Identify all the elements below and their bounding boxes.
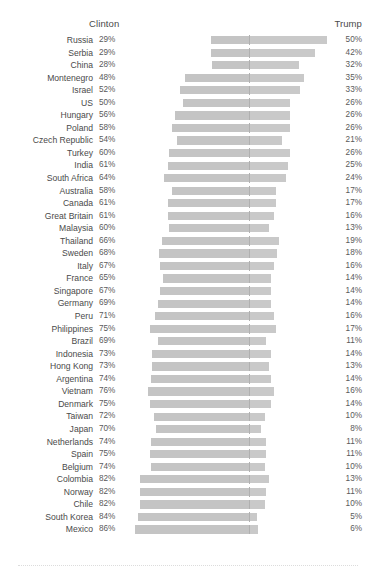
clinton-bar — [177, 136, 249, 144]
trump-bar — [249, 413, 265, 421]
clinton-value: 84% — [99, 511, 125, 524]
trump-value: 17% — [336, 197, 362, 210]
clinton-bar — [152, 350, 249, 358]
chart-row: Brazil69%11% — [0, 335, 370, 348]
clinton-bar — [151, 463, 249, 471]
bar-band — [132, 47, 330, 60]
trump-value: 17% — [336, 185, 362, 198]
bar-band — [132, 398, 330, 411]
country-label: Mexico — [0, 523, 93, 536]
country-label: Poland — [0, 122, 93, 135]
clinton-value: 72% — [99, 410, 125, 423]
trump-value: 16% — [336, 310, 362, 323]
trump-bar — [249, 249, 277, 257]
trump-bar — [249, 124, 290, 132]
trump-value: 14% — [336, 348, 362, 361]
center-divider — [249, 286, 250, 296]
bar-band — [132, 172, 330, 185]
chart-row: Taiwan72%10% — [0, 410, 370, 423]
trump-value: 11% — [336, 436, 362, 449]
bar-band — [132, 498, 330, 511]
bar-band — [132, 473, 330, 486]
clinton-value: 86% — [99, 523, 125, 536]
trump-value: 25% — [336, 159, 362, 172]
clinton-value: 61% — [99, 210, 125, 223]
center-divider — [249, 148, 250, 158]
clinton-bar — [156, 425, 249, 433]
bar-band — [132, 34, 330, 47]
diverging-bar-chart: Clinton Trump Russia29%50%Serbia29%42%Ch… — [0, 0, 370, 584]
country-label: Indonesia — [0, 348, 93, 361]
bar-band — [132, 122, 330, 135]
bar-band — [132, 373, 330, 386]
legend-label-trump: Trump — [334, 18, 362, 29]
trump-value: 35% — [336, 72, 362, 85]
trump-bar — [249, 325, 276, 333]
clinton-bar — [212, 61, 249, 69]
trump-value: 6% — [336, 523, 362, 536]
clinton-bar — [159, 249, 249, 257]
clinton-value: 69% — [99, 335, 125, 348]
clinton-value: 74% — [99, 436, 125, 449]
center-divider — [249, 337, 250, 347]
trump-value: 42% — [336, 47, 362, 60]
center-divider — [249, 299, 250, 309]
trump-value: 5% — [336, 511, 362, 524]
bar-band — [132, 285, 330, 298]
country-label: Serbia — [0, 47, 93, 60]
chart-legend-header: Clinton Trump — [0, 0, 370, 34]
clinton-bar — [168, 199, 249, 207]
clinton-value: 76% — [99, 385, 125, 398]
center-divider — [249, 349, 250, 359]
country-label: Japan — [0, 423, 93, 436]
trump-bar — [249, 488, 266, 496]
clinton-value: 82% — [99, 498, 125, 511]
chart-row: Colombia82%13% — [0, 473, 370, 486]
clinton-value: 29% — [99, 47, 125, 60]
center-divider — [249, 462, 250, 472]
chart-row: Spain75%11% — [0, 448, 370, 461]
bar-band — [132, 72, 330, 85]
trump-bar — [249, 262, 274, 270]
country-label: France — [0, 272, 93, 285]
chart-row: Argentina74%14% — [0, 373, 370, 386]
clinton-bar — [151, 375, 249, 383]
clinton-value: 66% — [99, 235, 125, 248]
trump-bar — [249, 500, 265, 508]
country-label: Turkey — [0, 147, 93, 160]
trump-value: 16% — [336, 260, 362, 273]
trump-bar — [249, 162, 288, 170]
trump-bar — [249, 237, 279, 245]
trump-bar — [249, 387, 274, 395]
clinton-value: 61% — [99, 197, 125, 210]
chart-row: Turkey60%26% — [0, 147, 370, 160]
chart-row: Belgium74%10% — [0, 461, 370, 474]
trump-bar — [249, 312, 274, 320]
clinton-bar — [151, 438, 249, 446]
country-label: Belgium — [0, 461, 93, 474]
center-divider — [249, 475, 250, 485]
chart-row: Australia58%17% — [0, 185, 370, 198]
chart-row: Czech Republic54%21% — [0, 134, 370, 147]
trump-bar — [249, 199, 276, 207]
trump-bar — [249, 224, 269, 232]
trump-value: 14% — [336, 285, 362, 298]
country-label: Hungary — [0, 109, 93, 122]
chart-row: Indonesia73%14% — [0, 348, 370, 361]
trump-bar — [249, 49, 315, 57]
center-divider — [249, 136, 250, 146]
country-label: South Korea — [0, 511, 93, 524]
chart-row: India61%25% — [0, 159, 370, 172]
clinton-bar — [169, 224, 249, 232]
bar-band — [132, 222, 330, 235]
clinton-value: 82% — [99, 486, 125, 499]
country-label: Thailand — [0, 235, 93, 248]
trump-bar — [249, 174, 286, 182]
trump-bar — [249, 475, 269, 483]
bar-band — [132, 210, 330, 223]
clinton-value: 68% — [99, 247, 125, 260]
center-divider — [249, 261, 250, 271]
bar-band — [132, 423, 330, 436]
footer-divider — [18, 565, 358, 566]
trump-bar — [249, 99, 290, 107]
